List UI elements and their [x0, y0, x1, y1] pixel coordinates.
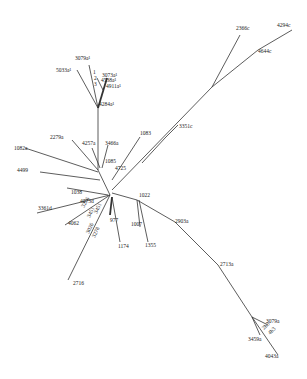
branch-b-root-long — [112, 87, 212, 190]
taxon-label: 1007 — [131, 221, 142, 227]
branch-b-root-977 — [110, 197, 112, 215]
taxon-label: 3361d — [38, 205, 52, 211]
branch-b-root-4499 — [40, 172, 100, 180]
taxon-label: 3351c — [179, 123, 193, 129]
taxon-label: 1022 — [139, 192, 150, 198]
taxon-label: 4257a — [82, 140, 96, 146]
taxon-label: 4043a — [265, 353, 279, 359]
taxon-label: 2716 — [73, 280, 84, 286]
taxon-labels: 2366c4294c4644c3079a¹5033a¹3073a¹4538a¹4… — [14, 22, 291, 359]
branch-b-long-3351 — [165, 125, 178, 138]
branch-b-root-1022 — [112, 193, 137, 200]
taxon-label: 4062 — [68, 220, 79, 226]
branch-b-4644-4294 — [258, 30, 292, 50]
taxon-label: 2279a — [50, 134, 64, 140]
taxon-label: 4644c — [258, 48, 272, 54]
taxon-label: 2366c — [236, 25, 250, 31]
taxon-label: 4911a¹ — [106, 83, 121, 89]
taxon-label: 977 — [110, 217, 119, 223]
taxon-label: 2903a — [175, 218, 189, 224]
taxon-label: 1038 — [71, 189, 82, 195]
taxon-label: 3459a — [248, 336, 262, 342]
taxon-label: 4499 — [17, 167, 28, 173]
branch-b-root-3466 — [102, 145, 108, 168]
tree-branches — [25, 30, 292, 355]
taxon-label: 1082a — [14, 145, 28, 151]
taxon-label: 1174 — [118, 243, 129, 249]
branch-b-2903-2713 — [175, 222, 218, 265]
taxon-label-rotated: 3 — [94, 81, 97, 87]
branch-b-main-left — [98, 170, 110, 195]
taxon-label: 2713a — [220, 261, 234, 267]
branch-b-tip-3459 — [252, 317, 260, 335]
taxon-label: 1083 — [140, 130, 151, 136]
taxon-label: 3079a¹ — [75, 55, 90, 61]
branch-b-long-2366 — [212, 35, 240, 87]
taxon-label: 4294c — [277, 22, 291, 28]
taxon-label: 1355 — [145, 242, 156, 248]
phylogenetic-tree: 2366c4294c4644c3079a¹5033a¹3073a¹4538a¹4… — [0, 0, 307, 379]
taxon-label: 1085 — [105, 158, 116, 164]
taxon-label: 4725 — [115, 165, 126, 171]
branch-b-root-1082 — [25, 148, 98, 172]
taxon-label: 4284a¹ — [99, 101, 114, 107]
taxon-label: 5033a¹ — [56, 67, 71, 73]
branch-b-3351-mid — [142, 138, 165, 163]
branch-b-long-4644 — [212, 50, 258, 87]
branch-b-2713-tip — [218, 265, 252, 317]
taxon-label: 3466a — [105, 140, 119, 146]
